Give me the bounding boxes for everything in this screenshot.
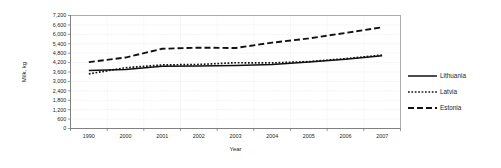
y-tick-label: 0: [63, 125, 66, 131]
y-tick-label: 1,200: [53, 107, 67, 113]
y-tick-label: 5,400: [53, 41, 67, 47]
legend-label-lithuania: Lithuania: [440, 72, 466, 79]
chart-canvas: 7,2006,6006,0005,4004,8004,2003,6003,000…: [0, 0, 501, 168]
x-tick-label: 2001: [156, 133, 168, 139]
y-tick-label: 3,000: [53, 78, 67, 84]
y-tick-label: 600: [57, 116, 66, 122]
x-tick-label: 2005: [303, 133, 315, 139]
x-tick-label: 2006: [340, 133, 352, 139]
x-tick-label: 1990: [83, 133, 95, 139]
x-tick-label: 2000: [120, 133, 132, 139]
x-tick-label: 2007: [376, 133, 388, 139]
legend-item-lithuania[interactable]: Lithuania: [408, 72, 466, 79]
x-tick-label: 2002: [193, 133, 205, 139]
y-tick-label: 6,600: [53, 22, 67, 28]
line-chart: 7,2006,6006,0005,4004,8004,2003,6003,000…: [0, 0, 501, 168]
y-tick-label: 4,800: [53, 50, 67, 56]
y-tick-label: 3,600: [53, 69, 67, 75]
x-axis-title: Year: [229, 146, 241, 152]
x-tick-label: 2003: [230, 133, 242, 139]
y-tick-label: 1,800: [53, 97, 67, 103]
y-axis-title: Milk, kg: [21, 62, 27, 82]
y-tick-label: 6,000: [53, 31, 67, 37]
series-line-estonia: [89, 27, 382, 62]
y-tick-label: 2,400: [53, 88, 67, 94]
legend-item-latvia[interactable]: Latvia: [408, 88, 457, 95]
legend-label-estonia: Estonia: [440, 104, 462, 111]
x-tick-label: 2004: [266, 133, 278, 139]
y-tick-label: 7,200: [53, 12, 67, 18]
legend-label-latvia: Latvia: [440, 88, 457, 95]
y-tick-label: 4,200: [53, 59, 67, 65]
series-line-latvia: [89, 55, 382, 74]
legend-item-estonia[interactable]: Estonia: [408, 104, 462, 111]
